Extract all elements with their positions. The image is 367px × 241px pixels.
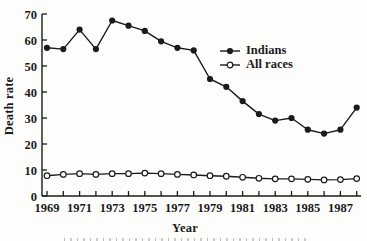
chart-canvas: 0102030405060701969197119731975197719791… (0, 0, 367, 241)
indians-point (305, 127, 311, 133)
indians-point (109, 17, 115, 23)
y-tick-label: 30 (25, 112, 38, 126)
all-races-point (272, 176, 278, 182)
x-tick-label: 1983 (263, 201, 288, 215)
indians-point (288, 115, 294, 121)
all-races-point (77, 171, 83, 177)
open-circle-marker-icon (219, 60, 241, 70)
all-races-point (224, 173, 230, 179)
all-races-point (126, 171, 132, 177)
all-races-point (354, 176, 360, 182)
indians-point (240, 98, 246, 104)
indians-point (256, 111, 262, 117)
indians-point (77, 27, 83, 33)
indians-point (44, 45, 50, 51)
all-races-point (142, 170, 148, 176)
legend-item-all-races: All races (219, 58, 293, 71)
indians-point (60, 46, 66, 52)
x-tick-label: 1971 (67, 201, 92, 215)
y-tick-label: 70 (25, 8, 38, 22)
all-races-point (93, 172, 99, 178)
indians-point (93, 46, 99, 52)
x-tick-label: 1979 (198, 201, 223, 215)
y-axis-title: Death rate (2, 77, 17, 136)
x-tick-label: 1975 (132, 201, 157, 215)
y-tick-label: 40 (25, 86, 38, 100)
all-races-point (338, 177, 344, 183)
x-tick-label: 1981 (230, 201, 255, 215)
all-races-point (256, 176, 262, 182)
indians-point (174, 45, 180, 51)
y-tick-label: 60 (25, 34, 38, 48)
all-races-point (305, 177, 311, 183)
indians-point (191, 47, 197, 53)
legend-label-indians: Indians (246, 44, 286, 57)
x-tick-label: 1969 (35, 201, 60, 215)
all-races-point (61, 172, 67, 178)
all-races-point (109, 171, 115, 177)
indians-point (272, 118, 278, 124)
legend-label-all-races: All races (246, 58, 293, 71)
y-tick-label: 50 (25, 60, 38, 74)
indians-point (158, 38, 164, 44)
indians-point (207, 76, 213, 82)
all-races-point (321, 177, 327, 183)
y-tick-label: 10 (25, 164, 38, 178)
x-axis-title: Year (172, 221, 198, 236)
indians-point (125, 23, 131, 29)
indians-point (337, 127, 343, 133)
death-rate-chart: 0102030405060701969197119731975197719791… (0, 0, 367, 241)
legend: Indians All races (219, 44, 293, 71)
legend-item-indians: Indians (219, 44, 293, 57)
indians-point (142, 28, 148, 34)
y-tick-label: 20 (25, 138, 38, 152)
all-races-point (44, 173, 50, 179)
all-races-point (289, 176, 295, 182)
indians-point (223, 84, 229, 90)
indians-point (354, 105, 360, 111)
all-races-point (158, 171, 164, 177)
all-races-point (175, 172, 181, 178)
all-races-point (207, 173, 213, 179)
x-tick-label: 1985 (295, 201, 320, 215)
indians-point (321, 131, 327, 137)
all-races-point (240, 174, 246, 180)
x-tick-label: 1973 (100, 201, 125, 215)
filled-circle-marker-icon (219, 46, 241, 56)
x-tick-label: 1987 (328, 201, 353, 215)
indians-line (47, 21, 357, 134)
x-tick-label: 1977 (165, 201, 190, 215)
all-races-point (191, 172, 197, 178)
